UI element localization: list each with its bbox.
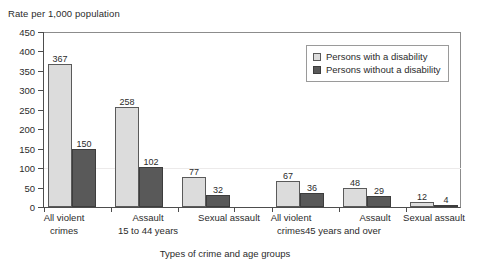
- bar-value: 67: [283, 171, 293, 181]
- y-tick-label-400: 400: [19, 46, 35, 57]
- y-tick-200: [38, 129, 44, 130]
- bar-without-disability: 150: [72, 149, 96, 207]
- age-group-label-15-44: 15 to 44 years: [106, 225, 190, 238]
- x-group-label-sexual-assault-45plus: Sexual assault: [388, 212, 480, 225]
- y-tick-400: [38, 51, 44, 52]
- bar-without-disability: 4: [434, 205, 458, 207]
- chart-page: Rate per 1,000 population 450 400 350 30…: [0, 0, 482, 279]
- bar-value: 48: [350, 178, 360, 188]
- group-label-line1: All violent: [245, 212, 337, 225]
- bar-without-disability: 102: [139, 167, 163, 207]
- age-group-label-45-plus: 45 years and over: [287, 225, 399, 238]
- bar-without-disability: 32: [206, 195, 230, 207]
- y-tick-100: [38, 168, 44, 169]
- bar-with-disability: 77: [182, 177, 206, 207]
- bar-with-disability: 67: [276, 181, 300, 207]
- legend-swatch-icon: [313, 66, 321, 74]
- y-tick-250: [38, 110, 44, 111]
- legend-swatch-icon: [313, 53, 321, 61]
- y-tick-label-350: 350: [19, 65, 35, 76]
- bar-value: 4: [443, 195, 448, 205]
- y-tick-300: [38, 90, 44, 91]
- y-tick-label-450: 450: [19, 27, 35, 38]
- group-label-line1: Sexual assault: [388, 212, 480, 225]
- y-tick-label-200: 200: [19, 124, 35, 135]
- y-tick-450: [38, 32, 44, 33]
- bar-value: 29: [374, 186, 384, 196]
- bar-with-disability: 12: [410, 202, 434, 207]
- bar-value: 77: [189, 167, 199, 177]
- y-tick-150: [38, 149, 44, 150]
- bar-without-disability: 29: [367, 196, 391, 207]
- bar-value: 36: [307, 183, 317, 193]
- bar-without-disability: 36: [300, 193, 324, 207]
- legend-label: Persons with a disability: [326, 51, 427, 62]
- legend-item-without-disability: Persons without a disability: [313, 63, 441, 76]
- bar-value: 32: [213, 185, 223, 195]
- group-label-line1: All violent: [18, 212, 110, 225]
- y-tick-label-0: 0: [30, 202, 35, 213]
- bar-value: 12: [417, 192, 427, 202]
- legend: Persons with a disability Persons withou…: [306, 45, 449, 82]
- legend-label: Persons without a disability: [326, 64, 441, 75]
- y-tick-50: [38, 188, 44, 189]
- y-tick-label-250: 250: [19, 104, 35, 115]
- y-tick-label-50: 50: [24, 182, 35, 193]
- bar-with-disability: 258: [115, 107, 139, 207]
- legend-item-with-disability: Persons with a disability: [313, 50, 441, 63]
- x-group-label-assault-15-44: Assault: [110, 212, 186, 225]
- y-axis-title: Rate per 1,000 population: [8, 8, 120, 19]
- y-tick-label-100: 100: [19, 163, 35, 174]
- group-label-line2: crimes: [18, 225, 110, 238]
- gridline-100: [44, 168, 461, 169]
- bar-with-disability: 367: [48, 64, 72, 207]
- group-label-line1: Assault: [110, 212, 186, 225]
- bar-value: 150: [76, 139, 91, 149]
- y-tick-350: [38, 71, 44, 72]
- bar-with-disability: 48: [343, 188, 367, 207]
- bar-value: 102: [143, 157, 158, 167]
- bar-value: 367: [52, 54, 67, 64]
- y-tick-label-150: 150: [19, 143, 35, 154]
- y-tick-label-300: 300: [19, 85, 35, 96]
- x-group-label-all-violent-crimes-15-44: All violent crimes: [18, 212, 110, 237]
- x-axis-title: Types of crime and age groups: [130, 248, 320, 259]
- bar-value: 258: [119, 97, 134, 107]
